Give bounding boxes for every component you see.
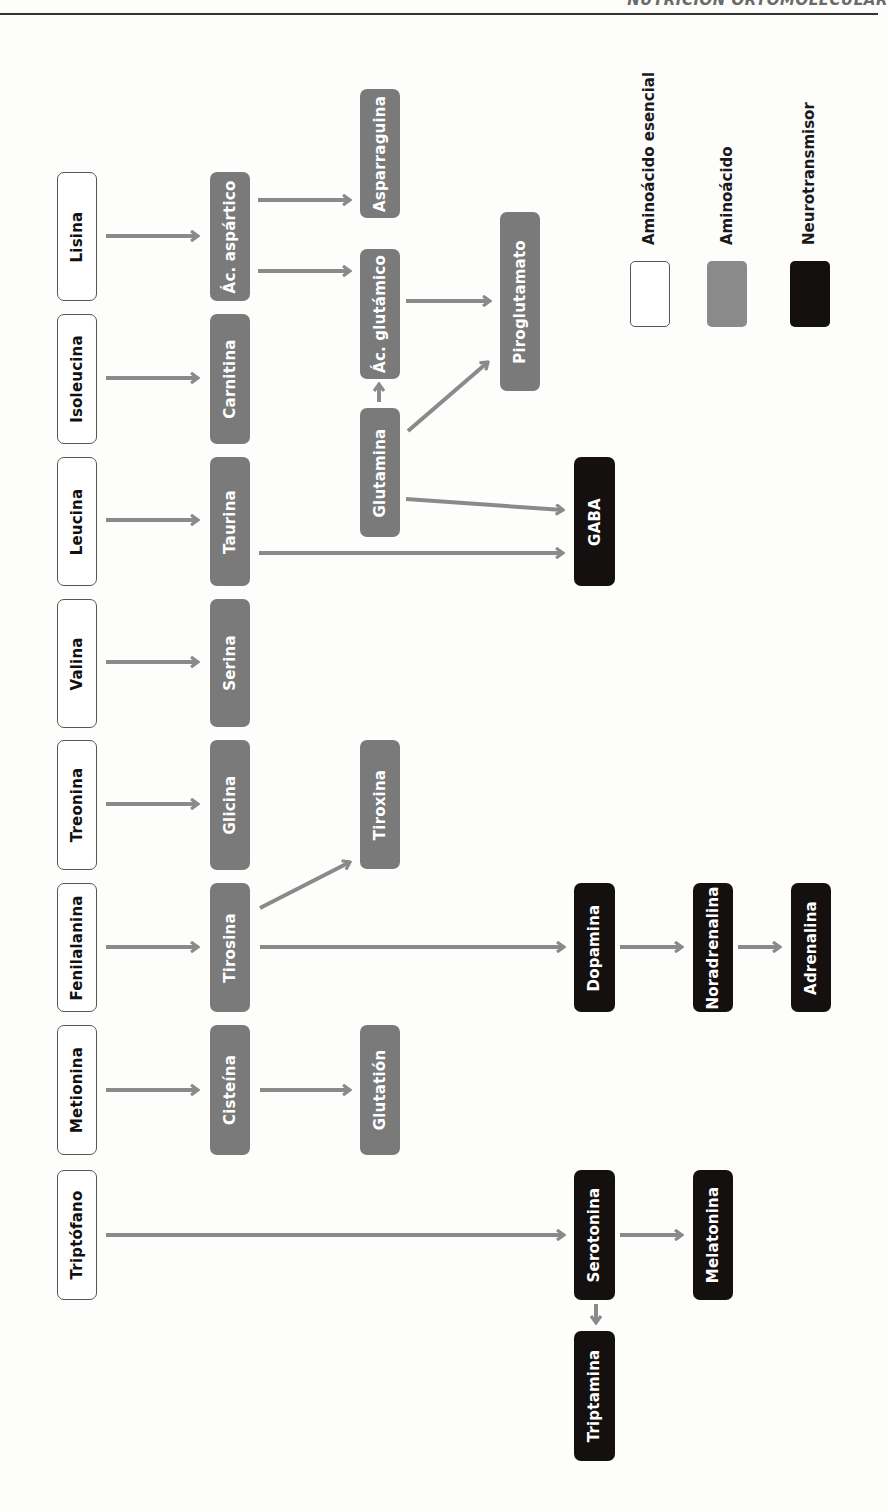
node-noradrenalina: Noradrenalina — [693, 883, 733, 1012]
node-serotonina: Serotonina — [574, 1170, 615, 1300]
node-glicina: Glicina — [210, 740, 250, 870]
node-cisteina: Cisteína — [210, 1025, 250, 1155]
legend-swatch-essential — [630, 261, 670, 327]
node-lisina: Lisina — [57, 172, 97, 301]
node-metionina: Metionina — [57, 1025, 97, 1155]
node-triptofano: Triptófano — [57, 1170, 97, 1300]
node-carnitina: Carnitina — [210, 314, 250, 444]
node-gaba: GABA — [574, 457, 615, 586]
node-glutamina: Glutamina — [360, 408, 400, 537]
node-fenilalanina: Fenilalanina — [57, 883, 97, 1012]
node-asparraguina: Asparraguina — [360, 89, 400, 218]
arrow-glutamina-gaba — [406, 499, 563, 510]
node-tirosina: Tirosina — [210, 883, 250, 1012]
node-tiroxina: Tiroxina — [360, 740, 400, 869]
node-leucina: Leucina — [57, 457, 97, 586]
node-ac-glutamico: Ác. glutámico — [360, 249, 400, 379]
node-serina: Serina — [210, 599, 250, 727]
node-isoleucina: Isoleucina — [57, 314, 97, 444]
node-glutation: Glutatión — [360, 1025, 400, 1155]
node-piroglutamato: Piroglutamato — [500, 212, 540, 391]
node-dopamina: Dopamina — [574, 883, 615, 1012]
node-valina: Valina — [57, 599, 97, 728]
node-adrenalina: Adrenalina — [791, 883, 831, 1012]
legend-swatch-amino — [707, 261, 747, 327]
legend-label-neuro: Neurotransmisor — [800, 102, 818, 245]
node-taurina: Taurina — [210, 457, 250, 586]
legend-label-amino: Aminoácido — [718, 146, 736, 245]
node-treonina: Treonina — [57, 740, 97, 870]
arrow-glutamina-piroglutamato — [408, 362, 488, 431]
legend-label-essential: Aminoácido esencial — [640, 72, 658, 245]
node-triptamina: Triptamina — [574, 1331, 615, 1461]
arrow-tirosina-tiroxina — [260, 862, 350, 908]
legend-swatch-neuro — [790, 261, 830, 327]
node-melatonina: Melatonina — [693, 1170, 733, 1300]
node-ac-aspartico: Ác. aspártico — [210, 172, 250, 301]
